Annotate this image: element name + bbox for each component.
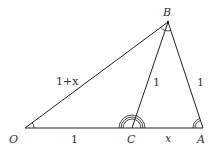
point-b-dot (167, 21, 169, 23)
label-a: A (196, 133, 205, 146)
label-cb: 1 (153, 76, 160, 89)
label-ob: 1+x (56, 75, 79, 88)
label-oc: 1 (71, 133, 78, 146)
label-ab: 1 (197, 76, 204, 89)
angle-a-mark-1 (195, 120, 201, 128)
angle-o-mark (32, 123, 34, 128)
label-o: O (9, 133, 18, 146)
triangle-diagram: O C A B 1+x 1 1 1 x (0, 0, 218, 150)
segment-ob (25, 22, 168, 128)
segment-cb (132, 22, 168, 128)
angle-b-mark-obc (161, 27, 165, 30)
label-ca: x (165, 132, 172, 145)
label-c: C (127, 133, 136, 146)
segment-ab (168, 22, 203, 128)
label-b: B (162, 6, 171, 19)
